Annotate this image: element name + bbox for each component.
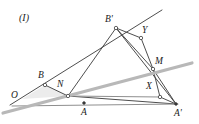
point-label-B: B xyxy=(38,71,44,81)
segment-Bprime-Aprime xyxy=(116,28,176,104)
vertex-marker-N xyxy=(66,94,69,97)
figure-caption: (I) xyxy=(19,13,29,23)
point-label-X: X xyxy=(146,82,152,92)
vertex-marker-Y xyxy=(139,36,142,39)
point-label-Bp: B' xyxy=(105,15,113,25)
figure-canvas xyxy=(0,0,199,124)
point-label-M: M xyxy=(155,57,163,67)
geometry-figure: OBNAB'YMXA' (I) xyxy=(0,0,199,124)
point-label-Y: Y xyxy=(142,26,147,36)
vertex-marker-Bp xyxy=(114,26,117,29)
point-label-N: N xyxy=(57,80,63,90)
segment-Y-M xyxy=(141,38,153,69)
point-label-Ap: A' xyxy=(174,109,182,119)
vertex-marker-A xyxy=(83,102,86,105)
vertex-marker-X xyxy=(158,95,161,98)
point-label-A: A xyxy=(81,108,87,118)
vertex-marker-B xyxy=(43,83,46,86)
vertex-marker-Ap xyxy=(175,103,178,106)
vertex-marker-M xyxy=(151,67,154,70)
segment-Bprime-M xyxy=(116,28,153,69)
point-label-O: O xyxy=(11,91,18,101)
